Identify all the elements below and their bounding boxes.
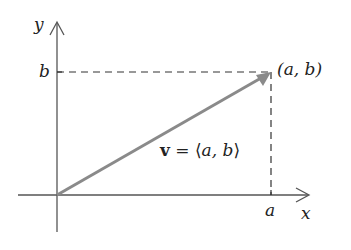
vector-components: a, b xyxy=(202,140,234,160)
point-label: (a, b) xyxy=(277,61,322,78)
open-angle-bracket: ⟨ xyxy=(195,140,202,160)
equals-sign: = xyxy=(175,140,189,160)
vector-name: v xyxy=(160,140,170,160)
vector-diagram: y b a x (a, b) v = ⟨a, b⟩ xyxy=(0,0,351,250)
vector-v xyxy=(57,72,271,195)
x-axis-label: x xyxy=(301,205,311,222)
close-angle-bracket: ⟩ xyxy=(233,140,240,160)
y-tick-label-b: b xyxy=(39,63,50,80)
y-axis xyxy=(50,22,64,232)
y-axis-label: y xyxy=(34,16,44,33)
diagram-graphics xyxy=(0,0,351,250)
x-tick-label-a: a xyxy=(265,202,275,219)
vector-equation: v = ⟨a, b⟩ xyxy=(160,142,240,159)
